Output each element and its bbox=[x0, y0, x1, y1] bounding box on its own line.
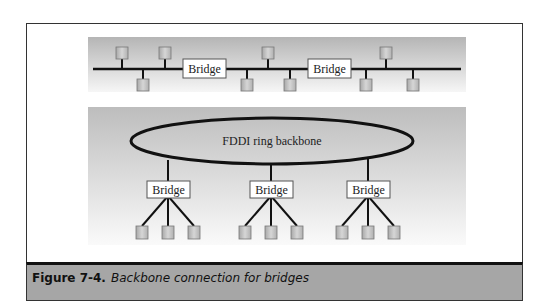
figure-number: Figure 7-4. bbox=[32, 271, 106, 285]
top-segment: Bridge Bridge bbox=[88, 37, 466, 92]
station-node-icon bbox=[262, 47, 274, 59]
figure-caption: Backbone connection for bridges bbox=[111, 271, 309, 285]
station-node-icon bbox=[239, 226, 251, 239]
bus-bridge-2: Bridge bbox=[308, 59, 351, 78]
station-node-icon bbox=[407, 79, 419, 91]
station-node-icon bbox=[116, 47, 128, 59]
station-node-icon bbox=[188, 226, 200, 239]
station-node-icon bbox=[159, 47, 171, 59]
station-node-icon bbox=[291, 226, 303, 239]
bridge-label: Bridge bbox=[152, 183, 185, 197]
station-node-icon bbox=[241, 79, 253, 91]
station-node-icon bbox=[362, 226, 374, 239]
station-node-icon bbox=[137, 79, 149, 91]
station-node-icon bbox=[380, 47, 392, 59]
station-node-icon bbox=[360, 79, 372, 91]
station-node-icon bbox=[284, 79, 296, 91]
station-node-icon bbox=[265, 226, 277, 239]
station-node-icon bbox=[388, 226, 400, 239]
ring-label: FDDI ring backbone bbox=[222, 134, 321, 148]
bus-bridge-1: Bridge bbox=[183, 59, 226, 78]
bridge-label: Bridge bbox=[313, 62, 346, 76]
bridge-label: Bridge bbox=[188, 62, 221, 76]
bridge-label: Bridge bbox=[352, 183, 385, 197]
station-node-icon bbox=[162, 226, 174, 239]
station-node-icon bbox=[136, 226, 148, 239]
backbone-section: FDDI ring backbone Bridge Bridge bbox=[88, 107, 466, 245]
bridge-label: Bridge bbox=[255, 183, 288, 197]
station-node-icon bbox=[336, 226, 348, 239]
